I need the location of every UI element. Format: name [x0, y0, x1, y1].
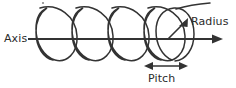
axis-arrowhead [212, 35, 223, 44]
pitch-label: Pitch [148, 73, 175, 84]
helix-diagram: Axis Radius Pitch [0, 0, 236, 88]
helix-coils [36, 3, 210, 61]
axis-label: Axis [4, 33, 27, 44]
helix-coil-1 [36, 7, 77, 61]
pitch-arrow [144, 62, 188, 70]
radius-label: Radius [191, 16, 228, 27]
helix-coil-3 [108, 7, 149, 61]
scan-speck [42, 2, 44, 4]
pitch-arrowhead-left [144, 62, 153, 70]
helix-drawing [0, 0, 236, 88]
helix-coil-2 [72, 7, 113, 61]
helix-coil-4 [144, 7, 185, 61]
pitch-arrowhead-right [179, 62, 188, 70]
helix-coil-5 [156, 8, 194, 61]
helix-tail-end [176, 3, 210, 9]
